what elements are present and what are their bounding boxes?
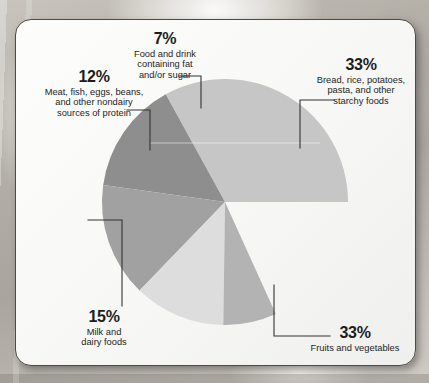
label-milk: 15% Milk and dairy foods	[56, 308, 152, 348]
label-fat-sugar-percent: 7%	[104, 30, 226, 49]
label-protein: 12% Meat, fish, eggs, beans, and other n…	[24, 68, 164, 119]
label-starchy-line3: starchy foods	[300, 96, 422, 107]
label-milk-percent: 15%	[56, 308, 152, 327]
label-fruits: 33% Fruits and vegetables	[296, 324, 414, 353]
label-starchy: 33% Bread, rice, potatoes, pasta, and ot…	[300, 56, 422, 107]
label-protein-line3: sources of protein	[24, 108, 164, 119]
label-protein-line2: and other nondairy	[24, 97, 164, 108]
label-milk-line1: Milk and	[56, 327, 152, 338]
label-fruits-percent: 33%	[296, 324, 414, 343]
label-starchy-percent: 33%	[300, 56, 422, 75]
label-starchy-line2: pasta, and other	[300, 85, 422, 96]
label-fruits-line1: Fruits and vegetables	[296, 343, 414, 354]
label-protein-percent: 12%	[24, 68, 164, 87]
label-milk-line2: dairy foods	[56, 337, 152, 348]
pie-slice-fat-sugar[interactable]	[223, 202, 276, 325]
label-starchy-line1: Bread, rice, potatoes,	[300, 75, 422, 86]
label-protein-line1: Meat, fish, eggs, beans,	[24, 87, 164, 98]
label-fat-sugar-line1: Food and drink	[104, 49, 226, 60]
